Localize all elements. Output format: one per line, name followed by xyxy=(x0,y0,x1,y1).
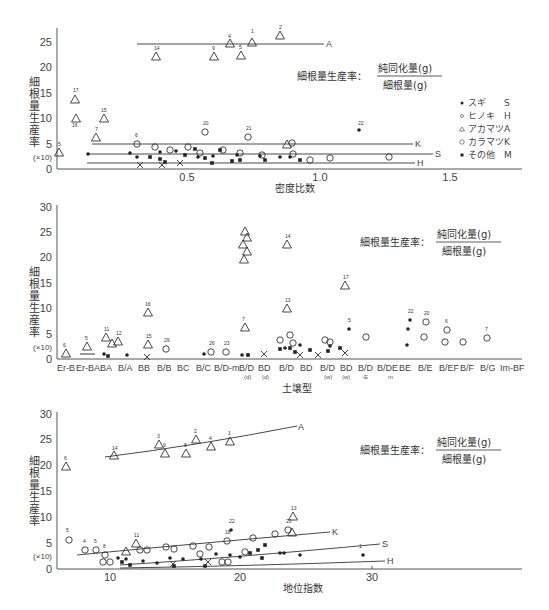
svg-text:5: 5 xyxy=(239,44,242,50)
svg-text:15: 15 xyxy=(101,107,107,113)
svg-text:4: 4 xyxy=(209,435,212,441)
svg-text:0.5: 0.5 xyxy=(179,171,194,183)
svg-text:16: 16 xyxy=(145,301,151,307)
svg-text:その他: その他 xyxy=(468,149,495,160)
svg-text:(d): (d) xyxy=(262,374,269,380)
svg-text:10: 10 xyxy=(104,571,116,583)
x-axis-label: 密度比数 xyxy=(275,182,315,194)
svg-text:10: 10 xyxy=(40,302,52,314)
svg-text:(×10): (×10) xyxy=(33,552,52,561)
svg-text:K: K xyxy=(504,137,511,147)
svg-text:0: 0 xyxy=(46,563,52,575)
svg-text:B/D: B/D xyxy=(239,363,255,373)
x-axis-label: 地位指数 xyxy=(283,582,323,594)
svg-text:14: 14 xyxy=(112,445,118,451)
svg-text:カラマツ: カラマツ xyxy=(468,137,504,147)
svg-text:7: 7 xyxy=(95,126,98,132)
fit-lines xyxy=(87,44,433,163)
svg-text:B/D-m: B/D-m xyxy=(214,363,240,373)
svg-text:6: 6 xyxy=(63,342,66,348)
svg-text:S: S xyxy=(382,539,388,549)
svg-text:17: 17 xyxy=(73,87,79,93)
svg-text:5: 5 xyxy=(46,138,52,150)
svg-text:2: 2 xyxy=(194,428,197,434)
svg-text:BA: BA xyxy=(100,363,112,373)
chart-site-index: 0 5 10 15 20 25 30 (×10) 10 20 30 地位指数 細… xyxy=(29,408,523,594)
svg-text:細根量(g): 細根量(g) xyxy=(442,453,486,465)
svg-text:25: 25 xyxy=(40,433,52,445)
svg-text:細根量生産率：: 細根量生産率： xyxy=(360,236,430,248)
y-axis-label: 細 根 量 生 産 率 xyxy=(29,455,40,528)
svg-text:(×10): (×10) xyxy=(33,343,52,352)
svg-text:8: 8 xyxy=(103,543,106,549)
svg-text:純同化量(g): 純同化量(g) xyxy=(437,228,491,240)
x-axis-label: 土壌型 xyxy=(282,382,312,394)
svg-text:15: 15 xyxy=(40,485,52,497)
svg-text:1.5: 1.5 xyxy=(442,171,457,183)
legend-item-sugi: スギ S xyxy=(461,98,511,108)
svg-text:11: 11 xyxy=(134,532,139,538)
data-points xyxy=(62,435,365,568)
svg-text:14: 14 xyxy=(154,45,160,51)
svg-text:-E: -E xyxy=(362,374,368,380)
svg-text:m: m xyxy=(388,374,393,380)
figure: 0 5 10 15 20 25 (×10) 0.5 1.0 1.5 密度比数 細… xyxy=(0,0,549,610)
svg-text:29: 29 xyxy=(164,337,170,343)
svg-text:5: 5 xyxy=(66,527,69,533)
legend: スギ S ヒノキ H アカマツ A カラマツ K その他 M xyxy=(460,98,512,160)
svg-text:率: 率 xyxy=(29,325,40,339)
legend-item-akamatsu: アカマツ A xyxy=(460,124,512,134)
svg-text:(w): (w) xyxy=(342,374,350,380)
svg-text:21: 21 xyxy=(246,125,252,131)
svg-text:Er-BA: Er-BA xyxy=(76,363,100,373)
svg-text:BC: BC xyxy=(177,363,190,373)
svg-text:25: 25 xyxy=(40,36,52,48)
svg-text:6: 6 xyxy=(135,132,138,138)
svg-text:9: 9 xyxy=(212,45,215,51)
svg-text:5: 5 xyxy=(58,141,61,147)
svg-text:20: 20 xyxy=(40,61,52,73)
svg-text:純同化量(g): 純同化量(g) xyxy=(378,62,432,74)
svg-text:5: 5 xyxy=(94,538,97,544)
svg-text:26: 26 xyxy=(209,340,215,346)
legend-item-hinoki: ヒノキ H xyxy=(461,111,511,121)
svg-text:20: 20 xyxy=(286,518,292,524)
svg-text:純同化量(g): 純同化量(g) xyxy=(437,436,491,448)
svg-text:B/A: B/A xyxy=(118,363,133,373)
svg-text:B/F: B/F xyxy=(460,363,475,373)
point-labels: 6511 121615 71413 172926 232220 675 xyxy=(63,233,488,348)
svg-text:H: H xyxy=(417,158,424,168)
svg-text:B/DE: B/DE xyxy=(377,363,398,373)
chart-density-ratio: 0 5 10 15 20 25 (×10) 0.5 1.0 1.5 密度比数 細… xyxy=(29,24,523,194)
svg-text:10: 10 xyxy=(40,511,52,523)
svg-text:B/EF: B/EF xyxy=(439,363,460,373)
y-axis-label: 細 根 量 生 産 率 xyxy=(29,76,40,149)
svg-text:根: 根 xyxy=(29,277,40,291)
svg-text:B/B: B/B xyxy=(157,363,172,373)
soil-type-labels: Er-B Er-BA BA B/A BB B/B BC B/C B/D-m B/… xyxy=(57,363,525,380)
svg-text:5: 5 xyxy=(348,317,351,323)
svg-text:5: 5 xyxy=(46,328,52,340)
svg-text:0: 0 xyxy=(46,353,52,365)
svg-text:H: H xyxy=(387,556,394,566)
svg-text:B/C: B/C xyxy=(196,363,212,373)
svg-text:生: 生 xyxy=(29,490,40,504)
formula-3: 細根量生産率： 純同化量(g) 細根量(g) xyxy=(360,436,501,465)
svg-text:BD: BD xyxy=(258,363,271,373)
svg-text:6: 6 xyxy=(64,455,67,461)
svg-text:5: 5 xyxy=(85,335,88,341)
svg-text:1: 1 xyxy=(251,28,254,34)
svg-text:10: 10 xyxy=(40,112,52,124)
svg-text:細根量生産率：: 細根量生産率： xyxy=(360,444,430,456)
svg-text:2: 2 xyxy=(279,24,282,30)
svg-text:12: 12 xyxy=(116,330,122,336)
svg-text:22: 22 xyxy=(358,120,364,126)
svg-text:(w): (w) xyxy=(324,374,332,380)
svg-text:20: 20 xyxy=(40,251,52,263)
svg-text:14: 14 xyxy=(285,233,291,239)
svg-text:アカマツ: アカマツ xyxy=(468,124,504,134)
svg-text:細根量(g): 細根量(g) xyxy=(442,245,486,257)
svg-text:20: 20 xyxy=(40,459,52,471)
svg-text:(d): (d) xyxy=(244,374,251,380)
svg-text:根: 根 xyxy=(29,87,40,101)
